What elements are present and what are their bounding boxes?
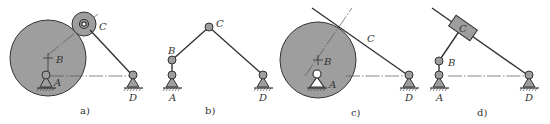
panel-d: A B C D d) bbox=[430, 8, 539, 118]
label-c: C bbox=[367, 33, 375, 44]
joint-b bbox=[435, 57, 443, 65]
label-a: A bbox=[168, 92, 176, 103]
label-c: C bbox=[99, 21, 107, 32]
joint-b bbox=[168, 56, 176, 64]
joint-a bbox=[313, 70, 321, 78]
panel-b: A B C D b) bbox=[163, 18, 273, 116]
label-c: C bbox=[459, 23, 467, 34]
link-cd bbox=[90, 30, 133, 76]
label-d: D bbox=[258, 92, 267, 103]
label-c: C bbox=[216, 18, 224, 29]
joint-a bbox=[168, 71, 176, 79]
slide-guide bbox=[432, 8, 529, 76]
label-b: B bbox=[447, 57, 455, 68]
label-d: D bbox=[404, 92, 413, 103]
label-d: D bbox=[128, 92, 137, 103]
label-b: B bbox=[323, 56, 331, 67]
four-bar-linkage-diagram: A B C D a) A B C D b) bbox=[0, 0, 550, 124]
panel-c: A B C D c) bbox=[280, 8, 419, 118]
label-b: B bbox=[55, 54, 63, 65]
label-b: B bbox=[167, 45, 175, 56]
caption-b: b) bbox=[205, 105, 215, 116]
joint-c-inner bbox=[82, 22, 86, 26]
caption-d: d) bbox=[477, 107, 487, 118]
joint-a bbox=[435, 71, 443, 79]
link-cd bbox=[209, 27, 263, 75]
panel-a: A B C D a) bbox=[10, 12, 143, 116]
label-a: A bbox=[435, 92, 443, 103]
joint-d bbox=[129, 71, 137, 79]
link-bc bbox=[172, 27, 209, 60]
label-a: A bbox=[53, 77, 61, 88]
joint-a bbox=[42, 71, 50, 79]
joint-d bbox=[405, 71, 413, 79]
caption-a: a) bbox=[80, 105, 90, 116]
label-d: D bbox=[524, 92, 533, 103]
joint-c bbox=[205, 23, 213, 31]
joint-d bbox=[525, 71, 533, 79]
joint-d bbox=[259, 71, 267, 79]
label-a: A bbox=[328, 79, 336, 90]
caption-c: c) bbox=[351, 107, 361, 118]
